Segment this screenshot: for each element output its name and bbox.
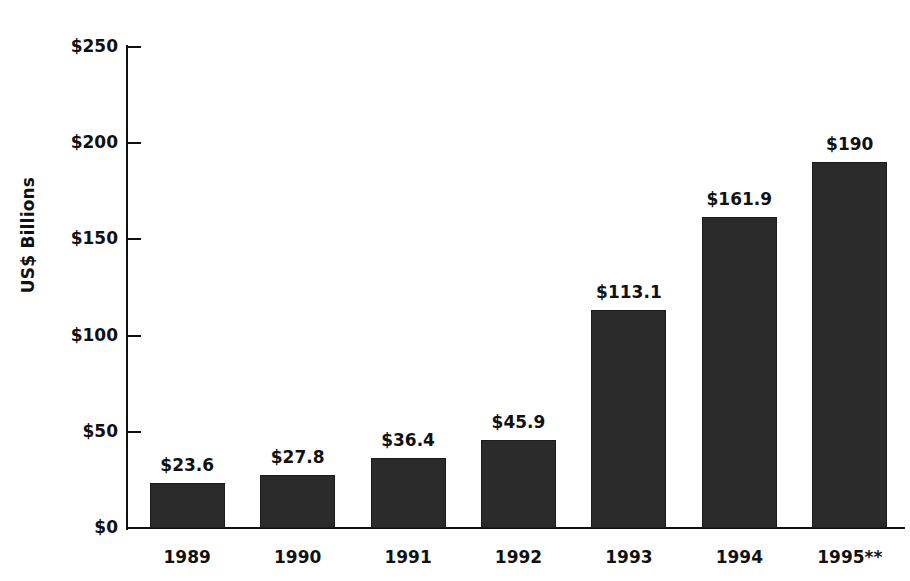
bar-value-label: $27.8 xyxy=(271,447,325,467)
bar[interactable] xyxy=(150,483,225,528)
bar-group[interactable]: $27.81990 xyxy=(260,0,335,581)
x-axis-category-label: 1990 xyxy=(274,547,321,567)
bar-value-label: $23.6 xyxy=(160,455,214,475)
bar-group[interactable]: $45.91992 xyxy=(481,0,556,581)
bar[interactable] xyxy=(591,310,666,528)
bar-value-label: $190 xyxy=(826,134,873,154)
bars-layer: $23.61989$27.81990$36.41991$45.91992$113… xyxy=(0,0,910,581)
x-axis-category-label: 1993 xyxy=(605,547,652,567)
bar-group[interactable]: $113.11993 xyxy=(591,0,666,581)
bar-group[interactable]: $161.91994 xyxy=(702,0,777,581)
bar-value-label: $36.4 xyxy=(381,430,435,450)
bar-group[interactable]: $1901995** xyxy=(812,0,887,581)
bar[interactable] xyxy=(702,217,777,528)
bar[interactable] xyxy=(812,162,887,528)
bar-value-label: $113.1 xyxy=(596,282,662,302)
bar-value-label: $161.9 xyxy=(707,189,773,209)
bar[interactable] xyxy=(371,458,446,528)
bar[interactable] xyxy=(481,440,556,528)
x-axis-category-label: 1992 xyxy=(495,547,542,567)
bar-chart: US$ Billions $0$50$100$150$200$250 $23.6… xyxy=(0,0,910,581)
bar-value-label: $45.9 xyxy=(492,412,546,432)
bar-group[interactable]: $23.61989 xyxy=(150,0,225,581)
x-axis-category-label: 1989 xyxy=(164,547,211,567)
bar[interactable] xyxy=(260,475,335,528)
bar-group[interactable]: $36.41991 xyxy=(371,0,446,581)
x-axis-category-label: 1995** xyxy=(817,547,882,567)
x-axis-category-label: 1994 xyxy=(716,547,763,567)
x-axis-category-label: 1991 xyxy=(384,547,431,567)
